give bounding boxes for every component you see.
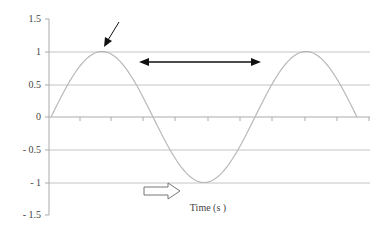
y-tick-label: 1.5: [29, 13, 42, 24]
y-tick-label: - 1: [30, 177, 41, 188]
sine-wave-chart: 1.5 1 0.5 0 - 0.5 - 1 - 1.5 Time (s ): [0, 0, 386, 229]
y-tick-label: 1: [36, 46, 41, 57]
y-tick-label: 0: [36, 111, 41, 122]
right-arrowhead-icon: [251, 58, 261, 66]
x-axis-ticks: [80, 117, 369, 121]
y-tick-label: 0.5: [29, 79, 42, 90]
y-tick-label: - 1.5: [23, 209, 41, 220]
crest-arrow: [104, 22, 119, 47]
y-axis-ticks: [45, 19, 49, 215]
arrowhead-icon: [104, 37, 112, 47]
y-tick-labels: 1.5 1 0.5 0 - 0.5 - 1 - 1.5: [23, 13, 41, 220]
wavelength-double-arrow: [139, 58, 261, 66]
left-arrowhead-icon: [139, 58, 149, 66]
y-tick-label: - 0.5: [23, 144, 41, 155]
x-axis-title: Time (s ): [190, 202, 226, 214]
time-direction-arrow-icon: [144, 183, 180, 199]
